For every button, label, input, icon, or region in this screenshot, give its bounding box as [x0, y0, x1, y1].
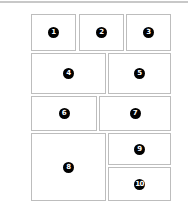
panel-number-badge: 3: [143, 27, 154, 38]
panel-5: 5: [108, 53, 171, 94]
panel-8: 8: [31, 133, 106, 201]
panel-number-badge: 6: [59, 108, 70, 119]
panel-number-badge: 8: [63, 162, 74, 173]
panel-7: 7: [99, 96, 171, 131]
panel-10: 10: [108, 167, 171, 201]
panel-number-badge: 2: [96, 27, 107, 38]
panel-1: 1: [31, 14, 76, 51]
panel-number-badge: 5: [134, 68, 145, 79]
panel-9: 9: [108, 133, 171, 165]
top-divider: [0, 1, 188, 3]
panel-number-badge: 1: [48, 27, 59, 38]
panel-2: 2: [79, 14, 124, 51]
panel-number-badge: 7: [130, 108, 141, 119]
panel-3: 3: [126, 14, 171, 51]
panel-number-badge: 4: [63, 68, 74, 79]
panel-6: 6: [31, 96, 97, 131]
panel-number-badge: 9: [134, 144, 145, 155]
panel-number-badge: 10: [134, 179, 145, 190]
panel-4: 4: [31, 53, 106, 94]
